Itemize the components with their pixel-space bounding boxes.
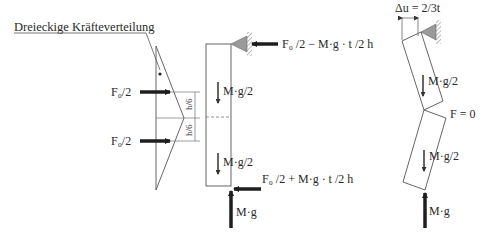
leader-dot [158, 72, 161, 75]
weight-lower-label: M·g/2 [223, 155, 253, 169]
wall-hatch-icon [247, 32, 252, 56]
vertical-reaction-label: M·g [429, 204, 450, 218]
triangular-distribution-panel: Dreieckige Kräfteverteilung h/6 h/6 F₀/2… [14, 20, 200, 190]
force-top-label: F₀/2 [111, 85, 131, 99]
title-label: Dreieckige Kräfteverteilung [14, 20, 155, 34]
weight-upper-label: M·g/2 [223, 84, 253, 98]
weight-lower-label: M·g/2 [429, 149, 459, 163]
force-bottom-label: F₀/2 [111, 134, 131, 148]
force-distribution-diagram: Dreieckige Kräfteverteilung h/6 h/6 F₀/2… [0, 0, 487, 238]
rocked-column-panel: Δu = 2/3t M·g/2 F = 0 M·g/2 M·g [395, 1, 475, 228]
vertical-reaction-label: M·g [236, 205, 257, 219]
wall-hatch-icon [436, 20, 441, 44]
top-reaction-label: F₀ /2 − M·g · t /2 h [282, 37, 373, 51]
dim-top-label: h/6 [184, 98, 194, 110]
pin-support-icon [231, 36, 247, 52]
weight-upper-label: M·g/2 [428, 74, 458, 88]
joint-force-label: F = 0 [450, 107, 475, 121]
displacement-label: Δu = 2/3t [395, 1, 441, 15]
upright-column-panel: F₀ /2 − M·g · t /2 h M·g/2 M·g/2 F₀ /2 +… [206, 32, 373, 228]
dim-bottom-label: h/6 [184, 124, 194, 136]
bottom-reaction-label: F₀ /2 + M·g · t /2 h [262, 172, 353, 186]
